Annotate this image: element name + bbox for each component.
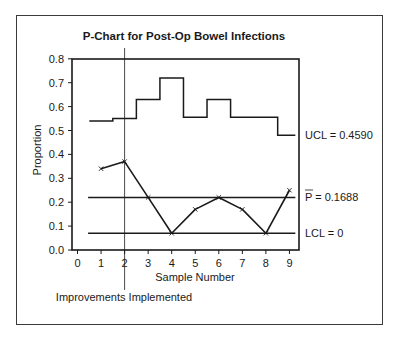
p-bar-label: P = 0.1688 [305, 190, 358, 203]
y-tick-label: 0.7 [49, 77, 64, 89]
y-tick-label: 0.6 [49, 101, 64, 113]
x-tick-label: 1 [98, 257, 104, 269]
p-bar-value: = 0.1688 [312, 191, 358, 203]
y-tick-label: 0.4 [49, 148, 64, 160]
y-tick-label: 0.3 [49, 172, 64, 184]
y-tick-label: 0.5 [49, 125, 64, 137]
x-tick-label: 0 [74, 257, 80, 269]
y-tick-label: 0.0 [49, 244, 64, 256]
x-tick-label: 7 [239, 257, 245, 269]
p-chart-svg: P-Chart for Post-Op Bowel Infections Pro… [0, 0, 394, 341]
p-bar-symbol: P [305, 191, 312, 203]
x-tick-label: 9 [286, 257, 292, 269]
y-axis-ticks: 0.00.10.20.30.40.50.60.70.8 [49, 53, 72, 256]
y-tick-label: 0.2 [49, 196, 64, 208]
y-tick-label: 0.1 [49, 220, 64, 232]
chart-title: P-Chart for Post-Op Bowel Infections [83, 30, 286, 42]
x-tick-label: 4 [169, 257, 175, 269]
x-axis-ticks: 0123456789 [74, 250, 292, 269]
p-bar-label-text: P = 0.1688 [305, 191, 358, 203]
x-tick-label: 6 [216, 257, 222, 269]
plot-area [72, 59, 299, 250]
lcl-label: LCL = 0 [305, 227, 343, 239]
ucl-step-line [89, 78, 295, 135]
p-chart-figure: P-Chart for Post-Op Bowel Infections Pro… [0, 0, 394, 341]
x-tick-label: 8 [263, 257, 269, 269]
y-tick-label: 0.8 [49, 53, 64, 65]
x-axis-label: Sample Number [155, 271, 235, 283]
y-axis-label: Proportion [31, 125, 43, 176]
improvements-annotation: Improvements Implemented [56, 291, 192, 303]
x-tick-label: 3 [145, 257, 151, 269]
x-tick-label: 5 [192, 257, 198, 269]
ucl-label: UCL = 0.4590 [305, 129, 373, 141]
